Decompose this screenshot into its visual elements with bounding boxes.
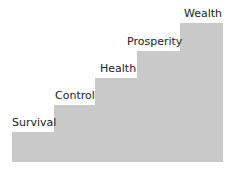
staircase-fill — [12, 23, 223, 162]
staircase-shape — [0, 0, 233, 170]
step-label-control: Control — [55, 90, 95, 102]
step-label-survival: Survival — [12, 117, 56, 129]
step-label-wealth: Wealth — [184, 8, 222, 20]
step-label-prosperity: Prosperity — [127, 36, 182, 48]
step-label-health: Health — [100, 63, 136, 75]
